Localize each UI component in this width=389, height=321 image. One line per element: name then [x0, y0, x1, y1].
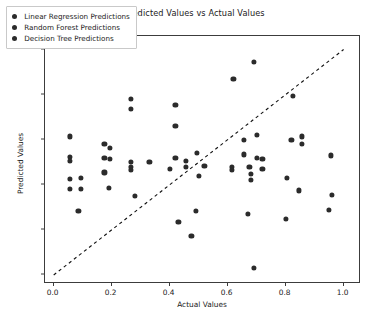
legend-marker-icon — [12, 36, 17, 41]
x-tick-label: 0.4 — [149, 288, 189, 297]
reference-line — [45, 36, 359, 282]
legend-item[interactable]: Linear Regression Predictions — [12, 11, 130, 22]
legend-item[interactable]: Decision Tree Predictions — [12, 33, 130, 44]
x-tick-mark — [53, 283, 54, 286]
legend-marker-icon — [12, 25, 17, 30]
x-axis-label: Actual Values — [44, 300, 360, 309]
legend-item-label: Decision Tree Predictions — [24, 34, 114, 43]
x-tick-mark — [285, 283, 286, 286]
x-tick-label: 0.6 — [207, 288, 247, 297]
x-tick-label: 0.0 — [33, 288, 73, 297]
x-tick-label: 0.2 — [91, 288, 131, 297]
x-tick-label: 1.0 — [323, 288, 363, 297]
plot-area — [44, 35, 360, 283]
plot-inner — [45, 36, 359, 282]
legend-item-label: Random Forest Predictions — [24, 23, 120, 32]
legend-item-label: Linear Regression Predictions — [24, 12, 130, 21]
x-tick-mark — [343, 283, 344, 286]
x-tick-label: 0.8 — [265, 288, 305, 297]
legend-marker-icon — [12, 14, 17, 19]
y-axis-label: Predicted Values — [16, 104, 25, 224]
chart-figure: Predicted Values vs Actual Values Predic… — [0, 0, 389, 321]
x-tick-mark — [111, 283, 112, 286]
x-tick-mark — [227, 283, 228, 286]
legend-item[interactable]: Random Forest Predictions — [12, 22, 130, 33]
x-tick-mark — [169, 283, 170, 286]
legend: Linear Regression PredictionsRandom Fore… — [6, 6, 137, 49]
